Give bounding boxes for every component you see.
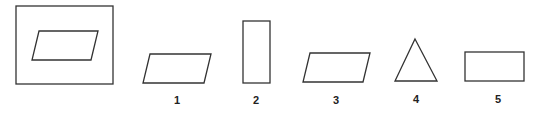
reference-frame (16, 6, 113, 84)
option-4-triangle[interactable] (395, 39, 437, 81)
option-4-label: 4 (406, 93, 426, 105)
option-1-parallelogram[interactable] (143, 54, 211, 83)
option-2-label: 2 (246, 94, 266, 106)
option-2-rectangle[interactable] (243, 21, 270, 83)
figure-canvas (0, 0, 535, 113)
option-3-parallelogram[interactable] (303, 53, 370, 82)
option-5-rectangle[interactable] (465, 52, 524, 81)
option-5-label: 5 (488, 93, 508, 105)
option-3-label: 3 (326, 94, 346, 106)
reference-parallelogram (32, 31, 98, 60)
option-1-label: 1 (167, 94, 187, 106)
